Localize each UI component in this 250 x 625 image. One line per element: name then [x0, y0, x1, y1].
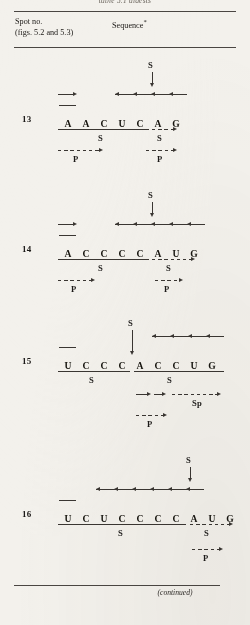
row16-base-2: U [95, 513, 113, 524]
row14-upper-left-arrowhead-icon [73, 222, 77, 226]
row15-under-label-S-2: S [167, 375, 172, 385]
row16-first-base-tick [59, 500, 76, 501]
row16-base-5: C [149, 513, 167, 524]
row15-spot-number: 15 [22, 356, 32, 366]
row16-under-dashed-line [190, 524, 230, 525]
row15-lower-arrowhead-2-icon [162, 392, 166, 396]
row13-upper-left-arrowhead-icon [73, 92, 77, 96]
row15-base-4: A [131, 360, 149, 371]
row15-lower-dashed-2 [136, 415, 164, 416]
row15-under-label-S-1: S [89, 375, 94, 385]
row13-lower-arrowhead-1-icon [99, 148, 103, 152]
row14-lower-arrowhead-2-icon [179, 278, 183, 282]
footnote-marker: * [143, 18, 146, 25]
row16-base-3: C [113, 513, 131, 524]
row13-first-base-tick [59, 105, 76, 106]
row15-lower-label-P: P [147, 419, 152, 429]
row16-upper-arrowhead-6-icon [186, 487, 190, 491]
row16-lower-label-P: P [203, 553, 208, 563]
row15-upper-arrowhead-2-icon [170, 334, 174, 338]
rule-top [14, 11, 236, 12]
row15-lower-arrowhead-4-icon [163, 413, 167, 417]
row16-under-label-S-2: S [204, 528, 209, 538]
row14-under-arrowhead-icon [191, 257, 195, 261]
row13-base-2: C [95, 118, 113, 129]
row16-base-7: A [185, 513, 203, 524]
row16-base-6: C [167, 513, 185, 524]
row15-base-7: U [185, 360, 203, 371]
row16-base-1: C [77, 513, 95, 524]
continued-note: (continued) [125, 588, 225, 597]
row16-base-4: C [131, 513, 149, 524]
row15-base-5: C [149, 360, 167, 371]
rule-bottom [14, 585, 220, 586]
row14-under-label-S-1: S [98, 263, 103, 273]
row16-upper-arrowhead-1-icon [96, 487, 100, 491]
row15-upper-arrowhead-1-icon [152, 334, 156, 338]
row15-upper-arrowhead-3-icon [188, 334, 192, 338]
row16-base-0: U [59, 513, 77, 524]
column-header-spot: Spot no. (figs. 5.2 and 5.3) [15, 17, 73, 38]
row15-under-solid-line-2 [134, 371, 224, 372]
row14-upper-left-line [58, 224, 74, 225]
row16-upper-arrowhead-5-icon [168, 487, 172, 491]
row14-under-label-S-2: S [166, 263, 171, 273]
row16-upper-arrowhead-2-icon [114, 487, 118, 491]
row13-under-solid-line [58, 129, 149, 130]
row13-upper-left-arrow-line [58, 94, 74, 95]
table-page: table 5.1 digests Spot no. (figs. 5.2 an… [0, 0, 250, 625]
row16-lower-arrowhead-1-icon [219, 547, 223, 551]
row16-under-label-S-1: S [118, 528, 123, 538]
row13-lower-dashed-1 [58, 150, 100, 151]
row13-under-dashed-line [152, 129, 174, 130]
row13-under-arrowhead-icon [173, 127, 177, 131]
row16-under-solid-line [58, 524, 186, 525]
row13-upper-arrowhead-3-icon [151, 92, 155, 96]
row13-lower-label-P-1: P [73, 154, 78, 164]
row14-base-1: C [77, 248, 95, 259]
row13-above-marker-S: S [148, 60, 153, 70]
column-header-sequence: Sequence* [112, 17, 147, 31]
row15-base-2: C [95, 360, 113, 371]
row15-lower-arrowhead-3-icon [217, 392, 221, 396]
row16-upper-arrowhead-3-icon [132, 487, 136, 491]
row13-base-3: U [113, 118, 131, 129]
row14-above-marker-S: S [148, 190, 153, 200]
row13-under-label-S-2: S [157, 133, 162, 143]
column-header-spot-line1: Spot no. [15, 17, 73, 28]
row15-lower-dashed-1 [172, 394, 218, 395]
row14-under-dashed-line [152, 259, 192, 260]
row14-upper-right-line [115, 224, 205, 225]
row14-upper-arrowhead-1-icon [115, 222, 119, 226]
row15-lower-label-Sp: Sp [192, 398, 202, 408]
row14-lower-label-P-1: P [71, 284, 76, 294]
row14-base-4: C [131, 248, 149, 259]
column-header-spot-line2: (figs. 5.2 and 5.3) [15, 28, 73, 39]
row14-upper-arrowhead-4-icon [169, 222, 173, 226]
row14-base-3: C [113, 248, 131, 259]
row13-base-4: C [131, 118, 149, 129]
row15-first-base-tick [59, 347, 76, 348]
row13-base-5: A [149, 118, 167, 129]
row14-base-2: C [95, 248, 113, 259]
row14-upper-arrowhead-2-icon [133, 222, 137, 226]
column-header-sequence-text: Sequence [112, 21, 143, 30]
row13-upper-arrowhead-1-icon [115, 92, 119, 96]
row14-lower-dashed-1 [58, 280, 92, 281]
row13-base-0: A [59, 118, 77, 129]
row13-lower-arrowhead-2-icon [173, 148, 177, 152]
row16-above-marker-S: S [186, 455, 191, 465]
row16-lower-dashed-1 [192, 549, 220, 550]
row14-base-6: U [167, 248, 185, 259]
row13-upper-arrowhead-4-icon [169, 92, 173, 96]
row14-lower-label-P-2: P [164, 284, 169, 294]
row14-spot-number: 14 [22, 244, 32, 254]
row15-above-marker-S: S [128, 318, 133, 328]
row16-spot-number: 16 [22, 509, 32, 519]
row13-lower-label-P-2: P [157, 154, 162, 164]
row16-upper-arrowhead-4-icon [150, 487, 154, 491]
running-head: table 5.1 digests [0, 0, 250, 3]
row16-base-8: U [203, 513, 221, 524]
row15-under-solid-line-1 [58, 371, 130, 372]
row15-upper-arrowhead-4-icon [206, 334, 210, 338]
